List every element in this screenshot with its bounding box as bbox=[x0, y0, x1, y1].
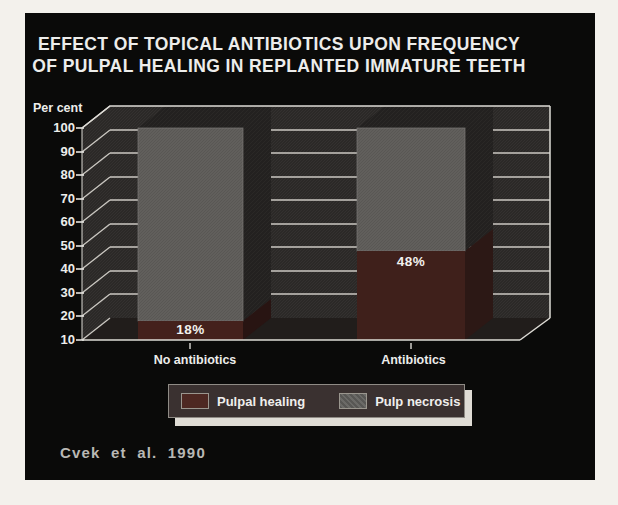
y-tick-label-60: 60 bbox=[33, 214, 75, 230]
value-label-no-antibiotics: 18% bbox=[138, 322, 243, 337]
y-tick-label-30: 30 bbox=[33, 285, 75, 301]
photo-background: EFFECT OF TOPICAL ANTIBIOTICS UPON FREQU… bbox=[0, 0, 618, 505]
legend-swatch-pulp-necrosis bbox=[339, 393, 367, 409]
legend-swatch-pulpal-healing bbox=[181, 393, 209, 409]
legend: Pulpal healing Pulp necrosis bbox=[168, 384, 465, 418]
chart-title: EFFECT OF TOPICAL ANTIBIOTICS UPON FREQU… bbox=[25, 33, 533, 77]
value-label-antibiotics: 48% bbox=[357, 254, 465, 269]
category-label-no-antibiotics: No antibiotics bbox=[135, 353, 255, 367]
y-tick-label-40: 40 bbox=[33, 261, 75, 277]
bar-side-necrosis bbox=[465, 106, 493, 251]
citation-text: Cvek et al. 1990 bbox=[60, 444, 206, 461]
legend-label-pulpal-healing: Pulpal healing bbox=[217, 394, 305, 409]
chart-title-line-2: OF PULPAL HEALING IN REPLANTED IMMATURE … bbox=[25, 55, 533, 77]
category-label-antibiotics: Antibiotics bbox=[357, 353, 470, 367]
category-ticks bbox=[190, 343, 411, 349]
bar-side-necrosis bbox=[243, 106, 271, 321]
y-tick-label-50: 50 bbox=[33, 238, 75, 254]
slide: EFFECT OF TOPICAL ANTIBIOTICS UPON FREQU… bbox=[25, 13, 595, 480]
y-tick-label-70: 70 bbox=[33, 191, 75, 207]
y-tick-label-90: 90 bbox=[33, 144, 75, 160]
bar-no-antibiotics bbox=[138, 106, 271, 340]
chart-title-line-1: EFFECT OF TOPICAL ANTIBIOTICS UPON FREQU… bbox=[25, 33, 533, 55]
y-tick-label-100: 100 bbox=[33, 120, 75, 136]
bar-front-necrosis bbox=[138, 128, 243, 321]
y-tick-label-80: 80 bbox=[33, 167, 75, 183]
legend-label-pulp-necrosis: Pulp necrosis bbox=[375, 394, 460, 409]
y-axis-title: Per cent bbox=[33, 101, 113, 115]
y-tick-label-20: 20 bbox=[33, 308, 75, 324]
bar-antibiotics bbox=[357, 106, 493, 340]
bar-front-necrosis bbox=[357, 128, 465, 251]
y-tick-label-10: 10 bbox=[33, 332, 75, 348]
